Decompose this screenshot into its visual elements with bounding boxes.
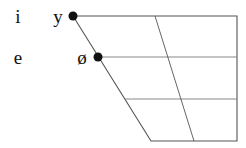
vowel-label-e: e: [14, 48, 22, 67]
trapezoid-outline: [73, 16, 237, 141]
vowel-label-y: y: [53, 7, 63, 26]
vowel-chart: i y e ø: [0, 0, 246, 148]
vowel-dot-y: [69, 12, 78, 21]
vowel-trapezoid: [0, 0, 246, 148]
vowel-label-i: i: [15, 7, 20, 26]
vowel-label-o-slash: ø: [77, 48, 87, 67]
height-lines: [98, 57, 237, 99]
vowel-dot-o-slash: [94, 53, 103, 62]
central-vowel-line: [155, 16, 194, 141]
